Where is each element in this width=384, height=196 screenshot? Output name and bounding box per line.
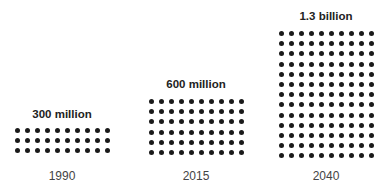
dot (279, 82, 284, 87)
dot (105, 128, 110, 133)
dot (55, 148, 60, 153)
dot (229, 119, 234, 124)
dot (199, 150, 204, 155)
dot (159, 140, 164, 145)
dot (229, 99, 234, 104)
value-label-2040: 1.3 billion (299, 10, 352, 22)
dot (299, 41, 304, 46)
dot (159, 99, 164, 104)
dot (65, 148, 70, 153)
dot (105, 148, 110, 153)
dot-grid-2015 (149, 99, 249, 160)
dot (359, 113, 364, 118)
dot (339, 133, 344, 138)
dot (229, 140, 234, 145)
dot (179, 130, 184, 135)
dot (359, 92, 364, 97)
dot (359, 62, 364, 67)
dot (189, 150, 194, 155)
dot (149, 109, 154, 114)
dot (199, 119, 204, 124)
dot (299, 92, 304, 97)
dot (369, 41, 374, 46)
dot (339, 41, 344, 46)
dot (319, 143, 324, 148)
dot (149, 140, 154, 145)
dot (329, 143, 334, 148)
dot (299, 31, 304, 36)
dot (209, 130, 214, 135)
dot (319, 123, 324, 128)
dot (199, 140, 204, 145)
year-label-1990: 1990 (49, 169, 76, 183)
dot (319, 31, 324, 36)
dot (289, 41, 294, 46)
dot (199, 130, 204, 135)
dot (339, 102, 344, 107)
dot (65, 128, 70, 133)
dot (349, 102, 354, 107)
dot (349, 41, 354, 46)
dot (369, 62, 374, 67)
dot (279, 41, 284, 46)
dot (339, 153, 344, 158)
dot (369, 153, 374, 158)
dot (359, 41, 364, 46)
dot (75, 148, 80, 153)
dot (159, 130, 164, 135)
dot (359, 102, 364, 107)
dot (149, 130, 154, 135)
dot (309, 102, 314, 107)
dot (219, 119, 224, 124)
dot (329, 41, 334, 46)
dot (299, 123, 304, 128)
dot (359, 153, 364, 158)
dot (359, 82, 364, 87)
dot (149, 150, 154, 155)
dot (319, 62, 324, 67)
dot (369, 31, 374, 36)
dot (149, 119, 154, 124)
dot (339, 62, 344, 67)
dot (299, 72, 304, 77)
dot (25, 128, 30, 133)
dot (15, 148, 20, 153)
dot (289, 153, 294, 158)
dot (239, 150, 244, 155)
dot (45, 148, 50, 153)
dot (219, 109, 224, 114)
dot (75, 128, 80, 133)
dot (169, 99, 174, 104)
dot (15, 128, 20, 133)
dot (209, 109, 214, 114)
dot (339, 92, 344, 97)
dot (299, 133, 304, 138)
dot (229, 130, 234, 135)
dot (229, 150, 234, 155)
dot (349, 153, 354, 158)
dot (279, 31, 284, 36)
dot (95, 148, 100, 153)
dot (239, 99, 244, 104)
dot (329, 113, 334, 118)
dot (289, 82, 294, 87)
dot (339, 51, 344, 56)
dot-grid-2040 (279, 31, 379, 163)
dot (349, 92, 354, 97)
dot (209, 119, 214, 124)
dot (25, 138, 30, 143)
dot (95, 138, 100, 143)
dot (219, 150, 224, 155)
dot (319, 113, 324, 118)
dot (289, 72, 294, 77)
dot (169, 119, 174, 124)
dot (329, 51, 334, 56)
dot (329, 82, 334, 87)
dot (289, 123, 294, 128)
dot (179, 150, 184, 155)
dot (179, 119, 184, 124)
dot (329, 153, 334, 158)
dot (309, 153, 314, 158)
dot (339, 31, 344, 36)
dot (319, 133, 324, 138)
